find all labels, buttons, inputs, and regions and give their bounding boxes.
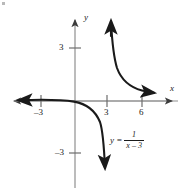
y-axis-label: y xyxy=(84,13,88,22)
equation-lhs: y = xyxy=(110,136,122,145)
x-axis-label: x xyxy=(170,84,174,93)
curve-right-branch xyxy=(111,22,154,93)
y-tick-label-3: 3 xyxy=(59,43,64,52)
equation-denominator: x – 3 xyxy=(124,141,144,150)
graph-figure: y x –3 3 6 3 –3 y = 1 x – 3 xyxy=(0,0,185,193)
curve-left-branch xyxy=(20,100,105,168)
x-tick-label--3: –3 xyxy=(34,108,43,117)
equation-numerator: 1 xyxy=(130,131,138,140)
graph-canvas xyxy=(0,0,185,193)
y-axis xyxy=(69,20,81,188)
equation-fraction: 1 x – 3 xyxy=(124,131,144,150)
x-tick-label-3: 3 xyxy=(104,108,109,117)
x-tick-label-6: 6 xyxy=(139,108,144,117)
x-axis xyxy=(14,95,178,107)
equation-label: y = 1 x – 3 xyxy=(110,131,144,150)
y-tick-label--3: –3 xyxy=(55,148,64,157)
